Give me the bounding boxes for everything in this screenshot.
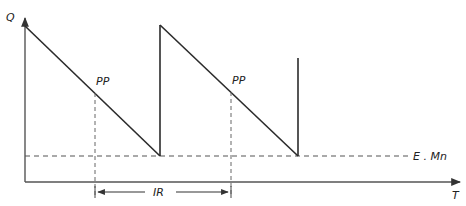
inventory-diagram: Q T E . Mn PP PP IR [0, 0, 466, 206]
depletion-line-1 [25, 26, 160, 156]
reorder-point-label-2: PP [232, 74, 246, 87]
reorder-point-label-1: PP [96, 75, 110, 88]
x-axis-label: T [452, 189, 460, 202]
depletion-line-2 [160, 25, 298, 156]
minimum-stock-label: E . Mn [413, 150, 447, 163]
y-axis-label: Q [6, 11, 15, 24]
reorder-interval-label: IR [153, 186, 164, 199]
